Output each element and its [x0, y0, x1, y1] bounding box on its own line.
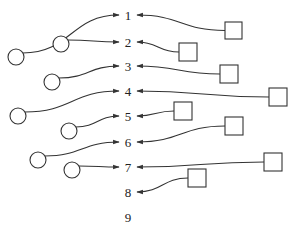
slot-label-8: 8	[125, 185, 132, 200]
slot-label-1: 1	[125, 8, 132, 23]
square-node-6	[225, 117, 243, 135]
arrow-circle-6-to-6	[45, 142, 119, 156]
arrow-square-4-to-4	[137, 91, 269, 97]
arrow-circle-3-to-3	[59, 66, 119, 78]
circle-node-5	[61, 123, 77, 139]
square-node-3	[220, 65, 238, 83]
slot-label-2: 2	[125, 35, 132, 50]
circle-node-3	[44, 74, 60, 90]
arrow-circle-2-to-2	[68, 40, 119, 42]
circle-nodes	[8, 36, 80, 178]
arrow-square-3-to-3	[137, 66, 220, 74]
circle-node-2	[53, 36, 69, 52]
square-node-8	[188, 169, 206, 187]
slot-label-3: 3	[125, 59, 132, 74]
arrow-square-1-to-1	[137, 15, 225, 31]
arrow-square-2-to-2	[137, 42, 179, 52]
slot-label-7: 7	[125, 160, 132, 175]
slot-label-6: 6	[125, 135, 132, 150]
circle-node-4	[10, 108, 26, 124]
square-node-4	[269, 88, 287, 106]
matching-diagram: 123456789	[0, 0, 295, 233]
arrow-circle-7-to-7	[79, 166, 119, 167]
square-node-5	[174, 102, 192, 120]
circle-node-6	[30, 152, 46, 168]
circle-node-1	[8, 49, 24, 65]
square-node-2	[179, 43, 197, 61]
slot-label-5: 5	[125, 109, 132, 124]
square-node-1	[225, 22, 242, 39]
slot-label-9: 9	[125, 210, 132, 225]
arrow-square-7-to-7	[137, 162, 264, 167]
arrow-square-6-to-6	[137, 126, 225, 142]
circle-node-7	[64, 162, 80, 178]
square-node-7	[264, 153, 282, 171]
arrow-circle-4-to-4	[25, 91, 119, 112]
arrow-square-5-to-5	[137, 111, 174, 116]
arrow-circle-1-to-1	[23, 15, 119, 53]
number-column: 123456789	[125, 8, 132, 225]
slot-label-4: 4	[125, 84, 132, 99]
arrow-square-8-to-8	[137, 178, 188, 192]
arrow-circle-5-to-5	[76, 116, 119, 127]
